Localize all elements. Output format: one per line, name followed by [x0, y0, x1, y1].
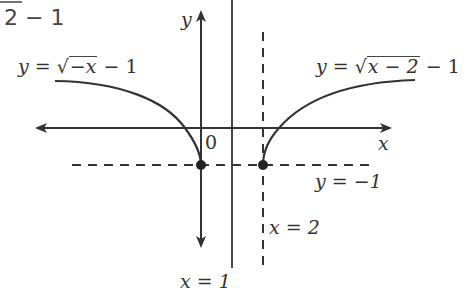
left-curve-label-prefix: y = [18, 55, 57, 77]
right-curve-radicand: x − 2 [367, 56, 420, 76]
origin-label: 0 [205, 133, 217, 152]
right-curve [263, 80, 415, 165]
right-curve-label: y = √x − 2 − 1 [316, 56, 460, 76]
left-curve-radicand: −x [69, 56, 98, 76]
sqrt-symbol: √ [57, 55, 69, 77]
x-axis-label: x [378, 134, 389, 153]
point-0-neg1 [196, 160, 206, 170]
y-eq-neg1-label: y = −1 [315, 172, 382, 191]
right-curve-label-prefix: y = [316, 55, 355, 77]
point-2-neg1 [258, 160, 268, 170]
x-eq-1-label: x = 1 [180, 272, 231, 291]
right-curve-label-suffix: − 1 [420, 55, 460, 77]
left-curve-label: y = √−x − 1 [18, 56, 138, 76]
partial-header-text: 2 − 1 [4, 7, 64, 29]
y-axis-label: y [181, 10, 192, 29]
sqrt-symbol: √ [355, 55, 367, 77]
x-eq-2-label: x = 2 [269, 218, 320, 237]
left-curve [55, 81, 201, 165]
left-curve-label-suffix: − 1 [97, 55, 137, 77]
